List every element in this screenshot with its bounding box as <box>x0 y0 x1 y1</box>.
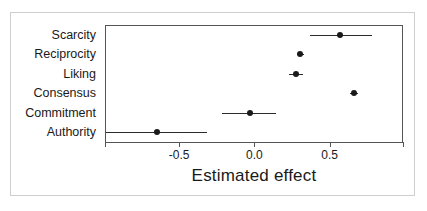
category-label-reciprocity: Reciprocity <box>34 47 96 61</box>
x-tick-4 <box>403 142 404 147</box>
x-tick-label: 0.5 <box>321 148 338 162</box>
category-label-liking: Liking <box>63 67 96 81</box>
category-label-scarcity: Scarcity <box>52 28 96 42</box>
data-point-reciprocity <box>297 51 303 57</box>
data-point-authority <box>154 129 160 135</box>
plot-panel <box>105 25 403 142</box>
data-point-liking <box>293 71 299 77</box>
x-tick-0 <box>105 142 106 147</box>
category-label-consensus: Consensus <box>33 86 96 100</box>
x-tick-1 <box>179 142 180 147</box>
x-tick-2 <box>254 142 255 147</box>
x-tick-label: 0.0 <box>246 148 263 162</box>
forest-plot-figure: -0.50.00.5 ScarcityReciprocityLikingCons… <box>0 0 427 211</box>
category-label-authority: Authority <box>47 125 96 139</box>
x-tick-3 <box>330 142 331 147</box>
x-axis-title: Estimated effect <box>105 166 403 186</box>
category-label-commitment: Commitment <box>25 106 96 120</box>
x-tick-label: -0.5 <box>169 148 190 162</box>
data-point-scarcity <box>337 32 343 38</box>
data-point-consensus <box>351 90 357 96</box>
data-point-commitment <box>247 110 253 116</box>
